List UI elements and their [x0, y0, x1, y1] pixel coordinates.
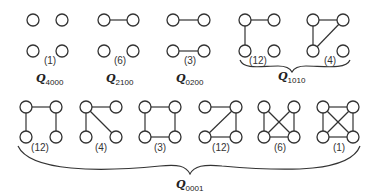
class-label-Q4000: Q4000 [36, 72, 64, 87]
graph-vertex [347, 101, 359, 113]
graph-vertex [337, 14, 349, 26]
graph-vertex [268, 45, 280, 57]
graph-vertex [127, 45, 139, 57]
graph-g2100: (6) [98, 14, 139, 66]
graph-vertex [169, 101, 181, 113]
graph-g1010a: (12) [239, 14, 280, 66]
graph-vertex [288, 101, 300, 113]
graph-vertex [20, 101, 32, 113]
graph-diagram: (1)(6)(3)(12)(4)(12)(4)(3)(12)(6)(1)Q400… [0, 0, 380, 193]
multiplicity-label: (3) [154, 142, 166, 153]
brace-Q0001 [18, 146, 360, 174]
graph-vertex [50, 101, 62, 113]
multiplicity-label: (6) [114, 55, 126, 66]
multiplicity-label: (12) [31, 142, 49, 153]
graph-vertex [258, 131, 270, 143]
graph-vertex [56, 14, 68, 26]
graph-g1010b: (4) [307, 14, 349, 66]
graph-g4000: (1) [27, 14, 68, 66]
graph-vertex [230, 101, 242, 113]
graph-vertex [268, 14, 280, 26]
graph-vertex [56, 45, 68, 57]
graph-vertex [317, 131, 329, 143]
graph-vertex [167, 14, 179, 26]
graph-vertex [198, 14, 210, 26]
graph-vertex [98, 45, 110, 57]
graph-vertex [98, 14, 110, 26]
graph-vertex [198, 45, 210, 57]
class-label-Q0001: Q0001 [176, 178, 204, 193]
graph-vertex [199, 131, 211, 143]
graph-g0001e: (6) [258, 101, 300, 153]
graph-g0001b: (4) [80, 101, 122, 153]
graph-vertex [258, 101, 270, 113]
multiplicity-label: (4) [324, 55, 336, 66]
graph-g0001d: (12) [199, 101, 242, 153]
graph-g0001f: (1) [317, 101, 359, 153]
multiplicity-label: (12) [212, 142, 230, 153]
multiplicity-label: (6) [274, 142, 286, 153]
class-label-Q2100: Q2100 [106, 72, 134, 87]
multiplicity-label: (1) [44, 55, 56, 66]
graph-vertex [169, 131, 181, 143]
graph-vertex [139, 101, 151, 113]
graph-g0001a: (12) [20, 101, 62, 153]
graph-vertex [307, 45, 319, 57]
graph-vertex [50, 131, 62, 143]
graph-vertex [337, 45, 349, 57]
graph-g0001c: (3) [139, 101, 181, 153]
graph-vertex [239, 14, 251, 26]
graph-vertex [80, 101, 92, 113]
graph-vertex [110, 131, 122, 143]
multiplicity-label: (12) [249, 55, 267, 66]
graph-vertex [230, 131, 242, 143]
multiplicity-label: (4) [95, 142, 107, 153]
graph-vertex [347, 131, 359, 143]
graph-vertex [307, 14, 319, 26]
graph-vertex [167, 45, 179, 57]
multiplicity-label: (1) [333, 142, 345, 153]
class-label-Q0200: Q0200 [176, 72, 204, 87]
graph-vertex [80, 131, 92, 143]
graph-vertex [27, 45, 39, 57]
multiplicity-label: (3) [184, 55, 196, 66]
graph-vertex [317, 101, 329, 113]
graph-vertex [27, 14, 39, 26]
graph-vertex [139, 131, 151, 143]
diagram-svg: (1)(6)(3)(12)(4)(12)(4)(3)(12)(6)(1)Q400… [0, 0, 380, 193]
graph-vertex [110, 101, 122, 113]
graph-g0200: (3) [167, 14, 210, 66]
graph-vertex [127, 14, 139, 26]
graph-vertex [288, 131, 300, 143]
graph-vertex [199, 101, 211, 113]
